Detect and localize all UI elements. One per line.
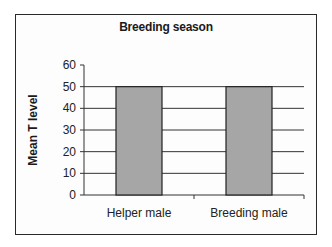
- y-tick-label: 50: [63, 80, 77, 94]
- x-tick-label: Helper male: [107, 206, 172, 220]
- bar: [226, 87, 272, 195]
- bar: [116, 87, 162, 195]
- x-tick-label: Breeding male: [210, 206, 288, 220]
- y-tick-label: 0: [69, 188, 76, 202]
- y-tick-label: 10: [63, 166, 77, 180]
- plot-area: 0102030405060Helper maleBreeding male: [0, 0, 332, 247]
- y-tick-label: 20: [63, 145, 77, 159]
- y-tick-label: 30: [63, 123, 77, 137]
- y-tick-label: 60: [63, 58, 77, 72]
- y-tick-label: 40: [63, 101, 77, 115]
